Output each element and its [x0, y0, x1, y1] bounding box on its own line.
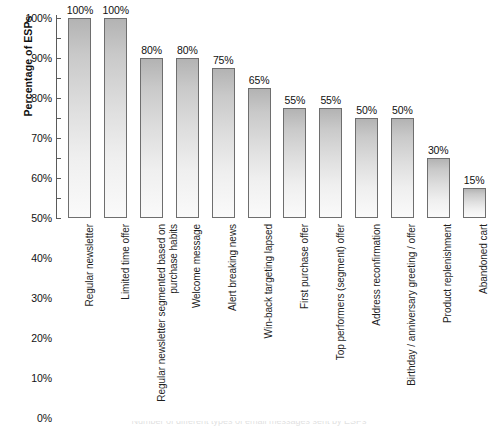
bar[interactable]	[391, 118, 414, 218]
y-axis-tick-label: 80%	[31, 92, 52, 104]
y-axis-tick: 10%	[56, 198, 61, 199]
x-axis-label-slot: Regular newsletter segmented based on pu…	[134, 224, 170, 414]
x-axis-category-label: Abandoned cart	[478, 224, 490, 409]
y-axis-tick: 70%	[56, 78, 61, 79]
x-axis-category-label: Top performers (segment) offer	[335, 224, 347, 409]
y-axis-tick: 40%	[56, 138, 61, 139]
x-axis-label-slot: Address reconfirmation	[349, 224, 385, 414]
x-axis-label-slot: Product replenishment	[420, 224, 456, 414]
y-axis-tick: 60%	[56, 98, 61, 99]
x-axis-category-label: First purchase offer	[299, 224, 311, 409]
bar[interactable]	[355, 118, 378, 218]
y-axis-tick-label: 20%	[31, 332, 52, 344]
bar[interactable]	[212, 68, 235, 218]
y-axis-tick: 80%	[56, 58, 61, 59]
bar-slot: 55%	[313, 18, 349, 218]
x-axis-category-label: Limited time offer	[120, 224, 132, 409]
bar-slot: 100%	[62, 18, 98, 218]
bar-value-label: 15%	[464, 174, 485, 186]
y-axis-tick-label: 90%	[31, 52, 52, 64]
x-axis-category-label: Regular newsletter	[84, 224, 96, 409]
y-axis-tick-label: 30%	[31, 292, 52, 304]
bar-value-label: 55%	[320, 94, 341, 106]
y-axis-tick: 100%	[56, 18, 61, 19]
x-axis-category-label: Address reconfirmation	[371, 224, 383, 409]
bar[interactable]	[176, 58, 199, 218]
bar-value-label: 55%	[285, 94, 306, 106]
y-axis-tick-label: 50%	[31, 212, 52, 224]
bar[interactable]	[463, 188, 486, 218]
x-axis-category-labels: Regular newsletterLimited time offerRegu…	[62, 224, 492, 414]
bar-slot: 55%	[277, 18, 313, 218]
bar-slot: 80%	[170, 18, 206, 218]
y-axis-tick-label: 10%	[31, 372, 52, 384]
bar[interactable]	[104, 18, 127, 218]
y-axis-tick: 30%	[56, 158, 61, 159]
x-axis-label-slot: Top performers (segment) offer	[313, 224, 349, 414]
x-axis-category-label: Welcome message	[191, 224, 203, 409]
bar-slot: 80%	[134, 18, 170, 218]
x-axis-category-label: Birthday / anniversary greeting / offer	[406, 224, 418, 409]
bar[interactable]	[68, 18, 91, 218]
bar-value-label: 75%	[213, 54, 234, 66]
bar-slot: 30%	[420, 18, 456, 218]
bar-value-label: 100%	[103, 4, 129, 16]
x-axis-label-slot: First purchase offer	[277, 224, 313, 414]
x-axis-category-label: Product replenishment	[442, 224, 454, 409]
bar[interactable]	[283, 108, 306, 218]
caption-text: Number of different types of email messa…	[0, 421, 498, 426]
y-axis-tick: 90%	[56, 38, 61, 39]
x-axis-label-slot: Alert breaking news	[205, 224, 241, 414]
y-axis-tick-label: 60%	[31, 172, 52, 184]
bar-value-label: 30%	[428, 144, 449, 156]
y-axis-tick: 20%	[56, 178, 61, 179]
x-axis-label-slot: Abandoned cart	[456, 224, 492, 414]
y-axis-tick: 50%	[56, 118, 61, 119]
x-axis-category-label: Alert breaking news	[227, 224, 239, 409]
x-axis-label-slot: Regular newsletter	[62, 224, 98, 414]
x-axis-label-slot: Welcome message	[170, 224, 206, 414]
bar-value-label: 80%	[177, 44, 198, 56]
bar-value-label: 65%	[249, 74, 270, 86]
bar-slot: 100%	[98, 18, 134, 218]
bar-slot: 50%	[349, 18, 385, 218]
bar-slot: 65%	[241, 18, 277, 218]
plot-area: 0%10%20%30%40%50%60%70%80%90%100% 100%10…	[62, 18, 492, 218]
y-axis-tick-label: 40%	[31, 252, 52, 264]
bar-value-label: 80%	[141, 44, 162, 56]
bar[interactable]	[140, 58, 163, 218]
x-axis-label-slot: Limited time offer	[98, 224, 134, 414]
x-axis-label-slot: Birthday / anniversary greeting / offer	[385, 224, 421, 414]
y-axis-tick: 0%	[56, 218, 61, 219]
bar-value-label: 100%	[67, 4, 93, 16]
bar-value-label: 50%	[356, 104, 377, 116]
bar[interactable]	[248, 88, 271, 218]
bar-chart: Percentage of ESPs 0%10%20%30%40%50%60%7…	[0, 0, 498, 427]
y-axis-tick-label: 70%	[31, 132, 52, 144]
y-axis-tick-label: 100%	[26, 12, 52, 24]
caption-remnant: Number of different types of email messa…	[0, 421, 498, 427]
x-axis-label-slot: Win-back targeting lapsed	[241, 224, 277, 414]
y-axis-line	[56, 15, 57, 219]
bar-value-label: 50%	[392, 104, 413, 116]
bar-slot: 15%	[456, 18, 492, 218]
x-axis-category-label: Win-back targeting lapsed	[263, 224, 275, 409]
bar-slot: 50%	[385, 18, 421, 218]
bar[interactable]	[427, 158, 450, 218]
bar[interactable]	[319, 108, 342, 218]
bar-slot: 75%	[205, 18, 241, 218]
